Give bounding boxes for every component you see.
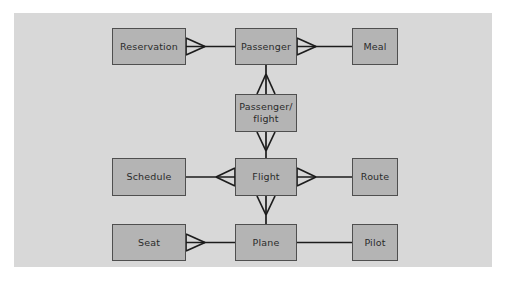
entity-schedule[interactable]: Schedule: [112, 158, 186, 196]
entity-seat-label: Seat: [136, 237, 162, 249]
er-diagram: Reservation Passenger Meal Passenger/ fl…: [0, 0, 509, 281]
connector-flight-route: [297, 168, 352, 186]
connector-passengerflight-flight: [257, 132, 275, 158]
entity-passenger[interactable]: Passenger: [235, 28, 297, 65]
connector-seat-plane: [186, 234, 235, 251]
entity-reservation-label: Reservation: [118, 41, 180, 53]
connector-reservation-passenger: [186, 38, 235, 55]
connector-flight-plane: [257, 196, 275, 224]
entity-meal[interactable]: Meal: [352, 28, 398, 65]
entity-plane-label: Plane: [251, 237, 282, 249]
connector-passenger-meal: [297, 38, 352, 55]
entity-passenger-flight-label: Passenger/ flight: [237, 101, 294, 125]
entity-schedule-label: Schedule: [125, 171, 174, 183]
entity-passenger-label: Passenger: [239, 41, 293, 53]
entity-pilot-label: Pilot: [362, 237, 387, 249]
entity-seat[interactable]: Seat: [112, 224, 186, 261]
entity-passenger-flight[interactable]: Passenger/ flight: [235, 94, 297, 132]
connector-schedule-flight: [186, 168, 235, 186]
entity-flight-label: Flight: [250, 171, 281, 183]
entity-reservation[interactable]: Reservation: [112, 28, 186, 65]
entity-route-label: Route: [359, 171, 391, 183]
entity-pilot[interactable]: Pilot: [352, 224, 398, 261]
connector-passenger-passengerflight: [257, 65, 275, 94]
entity-flight[interactable]: Flight: [235, 158, 297, 196]
entity-plane[interactable]: Plane: [235, 224, 297, 261]
entity-meal-label: Meal: [361, 41, 388, 53]
entity-route[interactable]: Route: [352, 158, 398, 196]
